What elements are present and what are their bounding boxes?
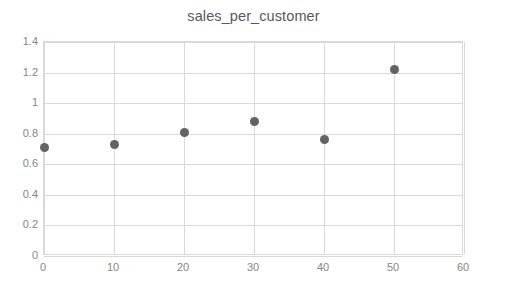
x-tick-label: 60 (443, 261, 483, 273)
gridline-horizontal (44, 195, 462, 196)
scatter-chart: sales_per_customer 00.20.40.60.811.21.4 … (0, 0, 507, 290)
gridline-horizontal (44, 103, 462, 104)
gridline-horizontal (44, 42, 462, 43)
x-tick-label: 10 (93, 261, 133, 273)
gridline-horizontal (44, 134, 462, 135)
x-tick-label: 30 (233, 261, 273, 273)
chart-title: sales_per_customer (0, 8, 507, 24)
y-tick-label: 0 (4, 249, 38, 261)
gridline-horizontal (44, 225, 462, 226)
data-point (390, 65, 399, 74)
data-point (180, 128, 189, 137)
data-point (110, 140, 119, 149)
x-tick-label: 20 (163, 261, 203, 273)
y-axis-tick-labels: 00.20.40.60.811.21.4 (0, 41, 38, 255)
y-tick-label: 0.6 (4, 157, 38, 169)
y-tick-label: 1.2 (4, 66, 38, 78)
gridline-horizontal (44, 73, 462, 74)
data-point (40, 143, 49, 152)
y-tick-label: 0.8 (4, 127, 38, 139)
gridline-vertical (324, 42, 325, 254)
y-tick-label: 1.4 (4, 35, 38, 47)
y-tick-label: 0.2 (4, 218, 38, 230)
data-point (320, 135, 329, 144)
x-axis-tick-labels: 0102030405060 (43, 261, 463, 279)
gridline-vertical (184, 42, 185, 254)
x-tick-label: 40 (303, 261, 343, 273)
gridline-vertical (254, 42, 255, 254)
x-tick-label: 50 (373, 261, 413, 273)
y-tick-label: 0.4 (4, 188, 38, 200)
x-tick-label: 0 (23, 261, 63, 273)
plot-area (43, 41, 463, 255)
gridline-horizontal (44, 256, 462, 257)
y-tick-label: 1 (4, 96, 38, 108)
data-point (250, 117, 259, 126)
gridline-vertical (464, 42, 465, 254)
gridline-horizontal (44, 164, 462, 165)
